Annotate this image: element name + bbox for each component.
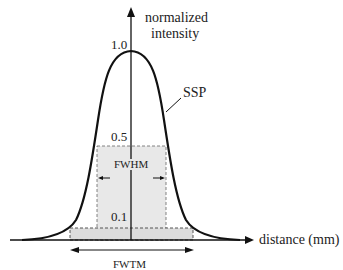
y-axis-label-line1: normalized <box>145 11 208 25</box>
y-axis-label-line2: intensity <box>151 27 199 41</box>
fwhm-label: FWHM <box>113 159 149 170</box>
tick-0-5: 0.5 <box>111 130 127 143</box>
tick-0-1: 0.1 <box>111 210 127 223</box>
y-axis-arrow-icon <box>127 7 135 17</box>
fwtm-label: FWTM <box>113 259 146 270</box>
fwtm-arrowhead-right-icon <box>185 247 194 253</box>
tick-1-0: 1.0 <box>111 38 127 51</box>
x-axis-arrow-icon <box>245 236 254 244</box>
ssp-diagram: normalized intensity 1.0 SSP 0.5 FWHM 0.… <box>0 0 343 270</box>
x-axis-label: distance (mm) <box>259 233 339 247</box>
fwtm-arrowhead-left-icon <box>70 247 79 253</box>
ssp-pointer <box>166 98 181 112</box>
curve-label-ssp: SSP <box>183 86 206 100</box>
